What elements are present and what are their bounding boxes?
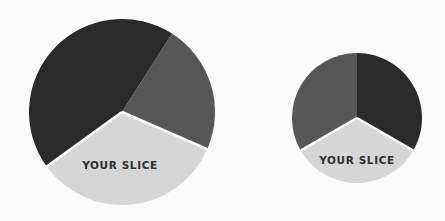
small-pie-your-slice-label: YOUR SLICE <box>318 154 394 166</box>
pie-canvas: YOUR SLICE YOUR SLICE <box>0 0 445 221</box>
large-pie-chart <box>29 19 215 205</box>
large-pie-your-slice-label: YOUR SLICE <box>81 159 157 171</box>
pie-comparison-diagram: YOUR SLICE YOUR SLICE <box>0 0 445 221</box>
